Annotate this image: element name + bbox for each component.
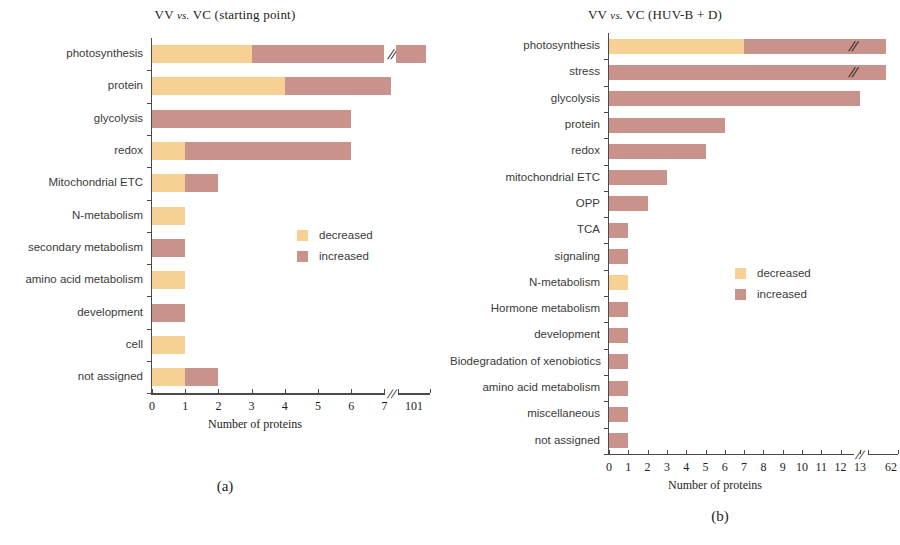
x-axis-tick-label: 1 [625,460,631,475]
legend-label-increased: increased [757,287,807,301]
bar-segment-decreased [152,336,185,354]
y-axis-tick [604,59,608,60]
bar-segment-decreased [152,271,185,289]
category-label: Biodegradation of xenobiotics [450,356,600,368]
x-axis-line-far [398,393,430,394]
x-axis-tick-label: 1 [182,399,188,414]
x-axis-tick [860,450,861,454]
x-axis-tick [667,450,668,454]
x-axis-tick-label: 7 [381,399,387,414]
x-axis-break-tick-label: 62 [885,460,897,475]
x-axis-tick [725,450,726,454]
x-axis-tick-label: 12 [835,460,847,475]
x-axis-line [151,393,385,394]
category-label: cell [0,339,143,351]
bar-segment-increased [609,381,628,396]
y-axis-tick [604,428,608,429]
x-axis-tick-label: 5 [315,399,321,414]
category-label: Mitochondrial ETC [0,178,143,190]
bar-segment-increased [609,302,628,317]
legend-label-decreased: decreased [757,266,811,280]
y-axis-tick [604,165,608,166]
category-label: redox [450,146,600,158]
category-label: N-metabolism [450,277,600,289]
category-label: protein [450,119,600,131]
bar-segment-increased [152,239,185,257]
x-axis-tick [841,450,842,454]
x-axis-tick-label: 4 [683,460,689,475]
x-axis-tick-label: 13 [854,460,866,475]
chart-panel-a: VV vs. VC (starting point) photosynthesi… [0,0,450,545]
category-label: amino acid metabolism [450,382,600,394]
x-axis-tick [898,450,899,454]
x-axis-tick-label: 3 [249,399,255,414]
bar-segment-decreased [152,174,185,192]
legend-swatch-increased [735,289,746,300]
bar-segment-increased [609,65,877,80]
y-axis-tick [147,232,151,233]
bar-segment-increased [609,170,667,185]
category-label: development [0,307,143,319]
x-axis-tick [218,389,219,393]
bar-segment-increased [609,328,628,343]
chart-a-plot-area: photosynthesis//proteinglycolysisredoxMi… [0,0,450,545]
x-axis-tick [152,389,153,393]
legend-label-decreased: decreased [319,228,373,242]
x-axis-tick [706,450,707,454]
category-label: redox [0,145,143,157]
panel-letter-b: (b) [711,508,729,525]
x-axis-line [608,454,854,455]
y-axis-tick [604,375,608,376]
x-axis-tick-label: 7 [741,460,747,475]
bar-segment-increased [609,354,628,369]
category-label: stress [450,67,600,79]
bar-segment-increased [285,77,391,95]
category-label: Hormone metabolism [450,303,600,315]
bar-segment-increased [609,144,706,159]
bar-segment-increased [152,110,351,128]
panel-letter-a: (a) [217,478,234,495]
x-axis-tick-label: 2 [645,460,651,475]
legend-swatch-decreased [735,268,746,279]
y-axis-tick [604,401,608,402]
x-axis-tick-label: 2 [215,399,221,414]
chart-panel-b: VV vs. VC (HUV-B + D) photosynthesis//st… [450,0,900,545]
x-axis-tick [185,389,186,393]
bar-segment-decreased [152,207,185,225]
x-axis-tick-label: 9 [780,460,786,475]
category-label: photosynthesis [450,40,600,52]
bar-segment-increased [609,407,628,422]
bar-segment-increased [185,368,218,386]
bar-segment-increased [185,142,351,160]
chart-b-plot-area: photosynthesis//stress//glycolysisprotei… [450,0,900,545]
bar-segment-increased [609,249,628,264]
y-axis-tick [604,112,608,113]
y-axis-tick [604,270,608,271]
y-axis-tick [604,86,608,87]
x-axis-tick [648,450,649,454]
x-axis-tick [430,389,431,393]
x-axis-tick-label: 0 [149,399,155,414]
x-axis-tick [318,389,319,393]
y-axis-tick [604,296,608,297]
category-label: amino acid metabolism [0,275,143,287]
x-axis-tick [744,450,745,454]
category-label: not assigned [0,371,143,383]
x-axis-tick [802,450,803,454]
bar-segment-decreased [152,142,185,160]
x-axis-tick [628,450,629,454]
x-axis-tick-label: 5 [703,460,709,475]
bar-segment-broken-increased [396,45,426,63]
x-axis-tick [821,450,822,454]
category-label: signaling [450,251,600,263]
x-axis-tick [351,389,352,393]
x-axis-line-far [868,454,898,455]
x-axis-tick-label: 6 [348,399,354,414]
x-axis-tick [285,389,286,393]
x-axis-tick-label: 4 [282,399,288,414]
bar-segment-increased [152,304,185,322]
category-label: mitochondrial ETC [450,172,600,184]
category-label: OPP [450,198,600,210]
y-axis-tick [147,264,151,265]
y-axis-tick [604,322,608,323]
